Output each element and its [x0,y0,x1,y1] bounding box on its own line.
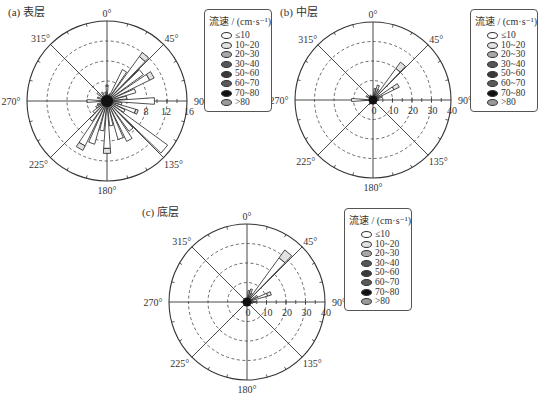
direction-label: 225° [296,156,315,167]
center-hub [243,298,252,307]
rose-petal [392,84,399,90]
ring-tick [127,175,128,178]
ring-tick [179,263,182,265]
ring-tick [353,25,354,28]
ring-tick [305,138,308,140]
ring-tick [172,321,175,322]
ring-tick [312,263,315,265]
ring-tick [392,25,393,28]
center-hub [101,95,113,107]
spoke-line [318,100,373,155]
ring-tick [86,24,87,27]
legend-swatch-icon [487,42,498,49]
rose-petal [103,148,110,153]
rose-diagram-surface: 0°45°90°135°180°225°270°315°81216 [2,8,209,196]
legend-swatch-icon [221,71,232,78]
legend-title: 流速 / (cm·s⁻¹) [475,13,533,28]
legend-item: >80 [487,98,533,108]
ring-tick [319,282,322,283]
direction-label: 0° [243,211,252,222]
radial-label: 0 [246,307,251,318]
legend-swatch-icon [361,250,372,257]
radial-label: 20 [282,307,292,318]
ring-tick [319,321,322,322]
ring-tick [146,168,148,171]
ring-tick [179,340,182,342]
legend-swatch-icon [487,71,498,78]
panel-title-surface: (a) 表层 [8,3,45,19]
ring-tick [86,175,87,178]
legend-items: ≤1010~2020~3030~4050~6060~7070~80>80 [349,230,407,307]
direction-label: 135° [303,358,322,369]
spoke-line [318,45,373,100]
ring-tick [334,165,336,168]
legend-swatch-icon [221,32,232,39]
ring-tick [392,172,393,175]
ring-tick [38,61,41,63]
direction-label: 315° [31,33,50,44]
rose-petal [267,292,272,296]
radial-label: 12 [161,106,171,117]
ring-tick [67,168,69,171]
ring-tick [411,165,413,168]
legend-swatch-icon [361,241,372,248]
direction-label: 45° [303,236,317,247]
legend-item: >80 [221,98,267,108]
direction-label: 0° [369,9,378,20]
legend-items: ≤1010~2020~3030~4050~6060~7070~80>80 [209,31,267,108]
ring-tick [30,121,33,122]
direction-label: 225° [29,159,48,170]
legend-title: 流速 / (cm·s⁻¹) [349,212,407,227]
legend-surface: 流速 / (cm·s⁻¹) ≤1010~2020~3030~4050~6060~… [204,9,272,112]
rose-diagram-middle: 0°45°90°135°180°225°270°315°010203040 [270,9,473,193]
ring-tick [266,374,267,377]
radial-label: 10 [263,307,273,318]
direction-label: 45° [429,34,443,45]
ring-tick [285,367,287,370]
direction-label: 0° [103,8,112,19]
direction-label: 315° [298,34,317,45]
ring-tick [285,234,287,237]
rose-petal [106,85,108,86]
legend-swatch-icon [221,80,232,87]
legend-swatch-icon [361,260,372,267]
legend-label: >80 [235,98,250,108]
panel-title-middle: (b) 中层 [280,3,318,19]
spoke-line [373,100,428,155]
ring-tick [312,340,315,342]
direction-label: 45° [165,33,179,44]
direction-label: 180° [98,185,117,196]
legend-label: >80 [501,98,516,108]
legend-swatch-icon [487,61,498,68]
ring-tick [30,80,33,81]
radial-label: 40 [447,105,457,116]
ring-tick [298,80,301,81]
legend-label: >80 [375,297,390,307]
legend-swatch-icon [361,289,372,296]
direction-label: 135° [429,156,448,167]
ring-tick [266,227,267,230]
ring-tick [174,140,177,142]
panel-title-bottom: (c) 底层 [142,203,179,219]
radial-label: 0 [372,105,377,116]
spoke-line [247,302,302,357]
ring-tick [445,119,448,120]
ring-tick [334,32,336,35]
ring-tick [127,24,128,27]
ring-tick [227,227,228,230]
rose-diagram-bottom: 0°45°90°135°180°225°270°315°010203040 [144,211,347,395]
ring-tick [227,374,228,377]
ring-tick [208,234,210,237]
legend-swatch-icon [487,80,498,87]
ring-tick [305,61,308,63]
direction-label: 315° [172,236,191,247]
spoke-line [192,247,247,302]
legend-swatch-icon [361,298,372,305]
ring-tick [438,138,441,140]
radial-label: 30 [428,105,438,116]
radial-label: 30 [302,307,312,318]
legend-swatch-icon [487,90,498,97]
direction-label: 180° [238,384,257,395]
ring-tick [353,172,354,175]
legend-swatch-icon [221,51,232,58]
